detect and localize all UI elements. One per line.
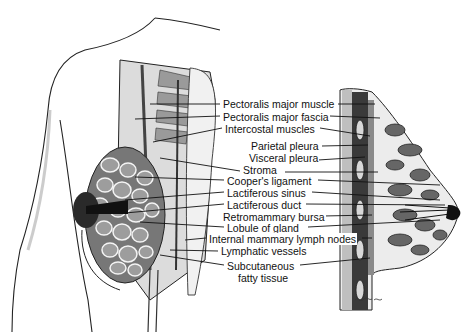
label-lactiferous-duct: Lactiferous duct: [226, 199, 302, 211]
label-lymphatic-vessels: Lymphatic vessels: [220, 245, 307, 257]
label-internal-mammary-lymph-nodes: Internal mammary lymph nodes: [208, 233, 357, 245]
label-subcutaneous: Subcutaneous: [226, 260, 295, 272]
anatomy-illustration: [0, 0, 472, 332]
label-coopers-ligament: Cooper's ligament: [226, 175, 312, 187]
label-pectoralis-major-muscle: Pectoralis major muscle: [222, 98, 335, 110]
label-lactiferous-sinus: Lactiferous sinus: [226, 187, 307, 199]
sagittal-section-drawing: [340, 89, 460, 310]
label-pectoralis-major-fascia: Pectoralis major fascia: [222, 111, 330, 123]
label-intercostal-muscles: Intercostal muscles: [224, 123, 316, 135]
label-parietal-pleura: Parietal pleura: [250, 140, 320, 152]
anatomy-figure: Pectoralis major muscle Pectoralis major…: [0, 0, 472, 332]
label-visceral-pleura: Visceral pleura: [248, 152, 319, 164]
label-fatty-tissue: fatty tissue: [237, 272, 289, 284]
